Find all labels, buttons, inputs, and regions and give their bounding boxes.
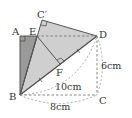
label-a: A [11,26,20,37]
measure-bc: 8cm [50,101,70,112]
measure-bd: 10cm [55,81,81,92]
label-c: C [99,95,107,106]
label-d: D [99,29,107,40]
measure-dc: 6cm [101,60,121,71]
label-f: F [56,67,63,78]
folded-rectangle-diagram: A E C′ D F B C 6cm 10cm 8cm [0,0,132,118]
label-c-prime: C′ [37,9,48,20]
label-b: B [9,91,16,102]
label-e: E [29,26,36,37]
